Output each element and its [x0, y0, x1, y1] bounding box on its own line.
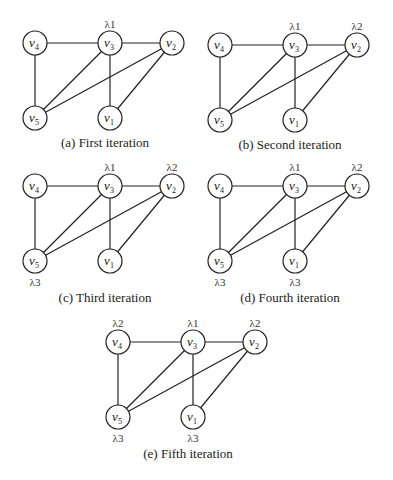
panel-caption: (e) Fifth iteration [143, 446, 233, 461]
color-label-v3: λ1 [105, 161, 116, 173]
node-v4: v4 [208, 33, 232, 57]
node-v2: v2 [243, 330, 267, 354]
edge-v2-v5 [35, 186, 172, 261]
panel-a: v4v3v2v5v1λ1(a) First iteration [23, 18, 184, 150]
node-v3: v3 [181, 330, 205, 354]
edge-v3-v5 [220, 186, 295, 261]
color-label-v3: λ1 [105, 18, 116, 30]
color-label-v3: λ1 [188, 317, 199, 329]
node-v1: v1 [181, 405, 205, 429]
node-v3: v3 [98, 174, 122, 198]
node-v4: v4 [106, 330, 130, 354]
edge-v2-v5 [118, 342, 255, 417]
node-v2: v2 [345, 33, 369, 57]
node-v1: v1 [98, 106, 122, 130]
edge-v2-v1 [295, 45, 357, 120]
panel-c: v4v3v2v5v1λ1λ2λ3(c) Third iteration [23, 161, 184, 305]
node-v4: v4 [23, 31, 47, 55]
panel-caption: (d) Fourth iteration [240, 290, 340, 305]
edge-v2-v1 [110, 43, 172, 118]
node-v5: v5 [208, 249, 232, 273]
edge-v2-v1 [295, 186, 357, 261]
node-v3: v3 [98, 31, 122, 55]
node-v1: v1 [283, 249, 307, 273]
color-label-v4: λ2 [113, 317, 124, 329]
panel-caption: (b) Second iteration [238, 137, 342, 152]
color-label-v5: λ3 [113, 432, 124, 444]
panel-caption: (a) First iteration [61, 135, 150, 150]
color-label-v2: λ2 [167, 161, 178, 173]
color-label-v5: λ3 [30, 276, 41, 288]
panel-caption: (c) Third iteration [59, 290, 152, 305]
panel-b: v4v3v2v5v1λ1λ2(b) Second iteration [208, 20, 369, 152]
edge-v2-v1 [193, 342, 255, 417]
node-v2: v2 [160, 174, 184, 198]
color-label-v1: λ3 [290, 276, 301, 288]
edge-v2-v5 [220, 45, 357, 120]
edge-v2-v5 [220, 186, 357, 261]
node-v5: v5 [208, 108, 232, 132]
node-v5: v5 [23, 106, 47, 130]
color-label-v3: λ1 [290, 161, 301, 173]
edge-v3-v5 [35, 43, 110, 118]
edge-v2-v1 [110, 186, 172, 261]
color-label-v2: λ2 [352, 20, 363, 32]
edge-v3-v5 [220, 45, 295, 120]
node-v2: v2 [160, 31, 184, 55]
panel-d: v4v3v2v5v1λ1λ2λ3λ3(d) Fourth iteration [208, 161, 369, 305]
node-v5: v5 [23, 249, 47, 273]
graph-coloring-figure: v4v3v2v5v1λ1(a) First iterationv4v3v2v5v… [0, 0, 393, 480]
node-v1: v1 [98, 249, 122, 273]
color-label-v2: λ2 [250, 317, 261, 329]
color-label-v5: λ3 [215, 276, 226, 288]
node-v2: v2 [345, 174, 369, 198]
color-label-v1: λ3 [188, 432, 199, 444]
node-v3: v3 [283, 33, 307, 57]
node-v5: v5 [106, 405, 130, 429]
edge-v2-v5 [35, 43, 172, 118]
panel-e: v4v3v2v5v1λ2λ1λ2λ3λ3(e) Fifth iteration [106, 317, 267, 461]
node-v3: v3 [283, 174, 307, 198]
edge-v3-v5 [35, 186, 110, 261]
edge-v3-v5 [118, 342, 193, 417]
color-label-v3: λ1 [290, 20, 301, 32]
node-v4: v4 [208, 174, 232, 198]
node-v4: v4 [23, 174, 47, 198]
node-v1: v1 [283, 108, 307, 132]
color-label-v2: λ2 [352, 161, 363, 173]
